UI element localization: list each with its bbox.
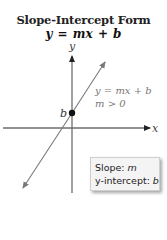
intercept-definition: y-intercept: b	[95, 174, 159, 187]
y-intercept-dot	[69, 110, 75, 116]
intercept-label: b	[60, 107, 67, 120]
slope-condition-label: m > 0	[95, 98, 126, 109]
slope-variable: m	[128, 162, 137, 173]
line-down-left	[23, 113, 72, 188]
line-equation-label: y = mx + b	[94, 85, 152, 96]
intercept-text: y-intercept:	[95, 175, 153, 186]
x-axis-label: x	[152, 122, 159, 135]
intercept-variable: b	[153, 175, 159, 186]
slope-text: Slope:	[95, 162, 128, 173]
definition-callout: Slope: m y-intercept: b	[90, 157, 160, 191]
y-axis-label: y	[68, 40, 76, 53]
slope-definition: Slope: m	[95, 161, 159, 174]
